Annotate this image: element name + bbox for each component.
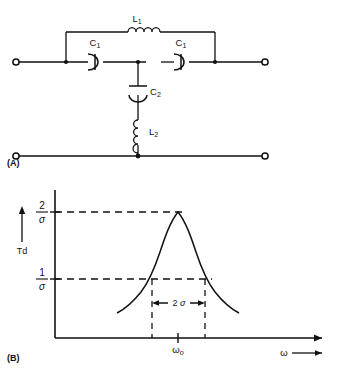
capacitor-C1-right-symbol — [174, 54, 184, 70]
inductor-L2-label: L2 — [149, 126, 158, 138]
figure-root: L1 C1 C1 C2 L2 — [0, 0, 337, 372]
x-tick-label-omega0: ωo — [172, 344, 183, 356]
y-tick-label-1-over-sigma: 1 σ — [36, 267, 48, 292]
svg-text:2: 2 — [39, 200, 45, 211]
panel-b-plot: 2 σ 2 σ 1 σ Td ωo ω — [17, 190, 322, 358]
capacitor-C1-left-label: C1 — [90, 37, 101, 49]
panel-label-a: (A) — [7, 158, 20, 168]
panel-label-b: (B) — [7, 353, 20, 363]
y-axis-title-text: Td — [17, 246, 28, 256]
terminal-output-bottom — [262, 153, 268, 159]
x-axis-arrowhead — [314, 335, 322, 342]
svg-text:σ: σ — [39, 281, 46, 292]
x-axis-title-text: ω — [280, 347, 288, 358]
capacitor-C1-left-symbol — [88, 54, 98, 70]
inductor-L1-symbol — [128, 28, 160, 32]
y-axis-title: Td — [17, 206, 28, 256]
capacitor-C2-label: C2 — [150, 86, 161, 98]
bandwidth-annotation: 2 σ — [152, 296, 205, 310]
y-tick-label-2-over-sigma: 2 σ — [36, 200, 48, 225]
terminal-input-top — [13, 59, 19, 65]
bandwidth-label: 2 σ — [173, 298, 187, 308]
inductor-L1-label: L1 — [132, 13, 141, 25]
panel-a-circuit: L1 C1 C1 C2 L2 — [13, 13, 268, 159]
capacitor-C1-right-label: C1 — [176, 37, 187, 49]
bridge-branch — [66, 32, 215, 62]
svg-text:1: 1 — [39, 267, 45, 278]
junction-dots — [64, 60, 217, 159]
terminals — [13, 59, 268, 159]
x-axis-title: ω — [280, 347, 322, 358]
svg-text:σ: σ — [39, 214, 46, 225]
inductor-L2-symbol — [133, 120, 138, 153]
terminal-output-top — [262, 59, 268, 65]
